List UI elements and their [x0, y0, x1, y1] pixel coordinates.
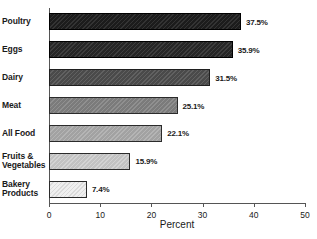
bar-value-label: 37.5% — [246, 18, 268, 27]
category-label-meat: Meat — [2, 101, 46, 111]
x-tick-20 — [151, 203, 152, 207]
plot-area: 01020304050 37.5%35.9%31.5%25.1%22.1%15.… — [49, 8, 305, 203]
x-tick-40 — [254, 203, 255, 207]
bar-eggs[interactable] — [49, 41, 233, 58]
x-axis-line — [49, 203, 305, 204]
category-label-line: Poultry — [2, 16, 31, 26]
bar-value-label: 15.9% — [135, 157, 157, 166]
x-tick-30 — [203, 203, 204, 207]
bar-meat[interactable] — [49, 97, 178, 114]
category-label-line: Bakery — [2, 179, 30, 189]
x-tick-0 — [49, 203, 50, 207]
category-label-all-food: All Food — [2, 129, 46, 139]
bar-bakery-products[interactable] — [49, 181, 87, 198]
bar-fruits-vegetables[interactable] — [49, 153, 130, 170]
category-label-bakery-products: BakeryProducts — [2, 180, 46, 199]
category-label-dairy: Dairy — [2, 73, 46, 83]
category-label-line: Fruits & — [2, 151, 33, 161]
bar-poultry[interactable] — [49, 13, 241, 30]
category-label-line: Eggs — [2, 44, 22, 54]
bar-value-label: 25.1% — [183, 102, 205, 111]
bar-value-label: 22.1% — [167, 129, 189, 138]
bar-chart: PoultryEggsDairyMeatAll FoodFruits &Vege… — [0, 0, 317, 239]
bar-value-label: 7.4% — [92, 185, 109, 194]
x-tick-10 — [100, 203, 101, 207]
bar-all-food[interactable] — [49, 125, 162, 142]
category-label-eggs: Eggs — [2, 45, 46, 55]
category-label-line: Products — [2, 189, 46, 199]
bar-dairy[interactable] — [49, 69, 210, 86]
category-label-line: Meat — [2, 100, 21, 110]
category-label-line: Vegetables — [2, 161, 46, 171]
bar-value-label: 31.5% — [215, 74, 237, 83]
category-label-line: All Food — [2, 128, 35, 138]
category-label-fruits-vegetables: Fruits &Vegetables — [2, 152, 46, 171]
x-axis-title: Percent — [49, 219, 305, 230]
x-tick-50 — [305, 203, 306, 207]
category-label-poultry: Poultry — [2, 17, 46, 27]
category-label-line: Dairy — [2, 72, 23, 82]
bar-value-label: 35.9% — [238, 46, 260, 55]
